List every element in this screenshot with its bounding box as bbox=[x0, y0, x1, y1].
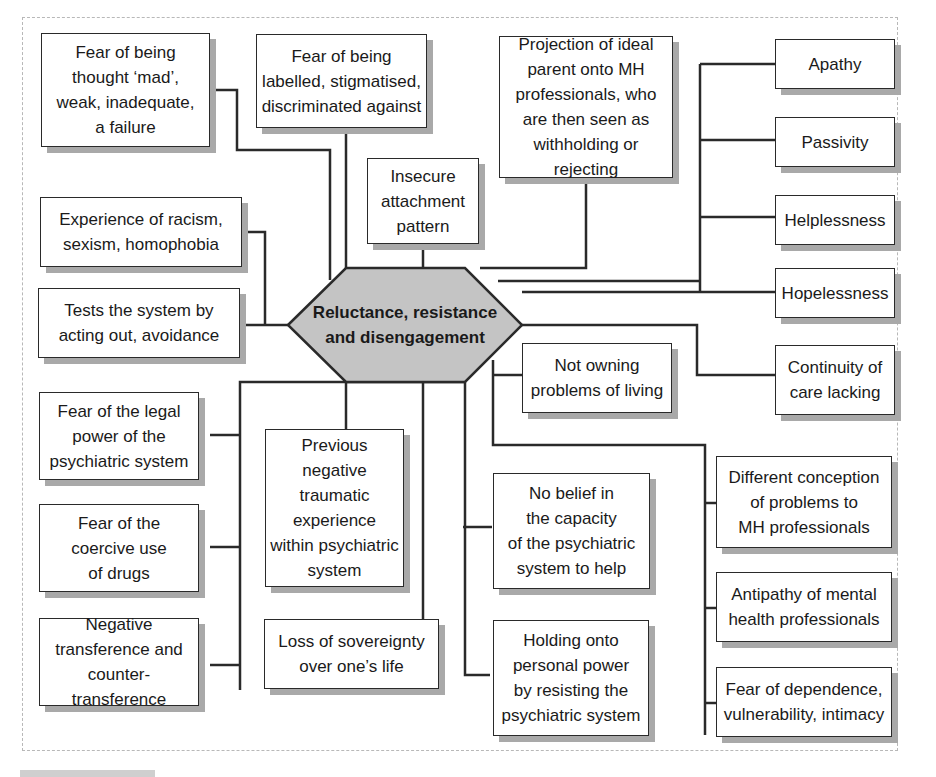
node-fear-thought-mad: Fear of being thought ‘mad’, weak, inade… bbox=[41, 33, 210, 147]
node-helplessness: Helplessness bbox=[775, 195, 895, 245]
node-passivity: Passivity bbox=[775, 117, 895, 167]
caption-tab bbox=[20, 770, 155, 777]
node-no-belief: No belief in the capacity of the psychia… bbox=[493, 473, 650, 589]
node-hopelessness: Hopelessness bbox=[775, 268, 895, 318]
node-fear-legal-power: Fear of the legal power of the psychiatr… bbox=[39, 392, 199, 480]
node-fear-labelled: Fear of being labelled, stigmatised, dis… bbox=[256, 34, 427, 128]
node-projection-ideal-parent: Projection of ideal parent onto MH profe… bbox=[499, 36, 673, 178]
node-fear-coercive-drugs: Fear of the coercive use of drugs bbox=[39, 504, 199, 592]
node-holding-power: Holding onto personal power by resisting… bbox=[493, 620, 649, 736]
node-negative-transference: Negative transference and counter-transf… bbox=[39, 618, 199, 706]
node-loss-sovereignty: Loss of sovereignty over one’s life bbox=[264, 619, 439, 689]
node-previous-negative: Previous negative traumatic experience w… bbox=[265, 429, 404, 587]
node-insecure-attachment: Insecure attachment pattern bbox=[367, 158, 479, 244]
node-experience-racism: Experience of racism, sexism, homophobia bbox=[40, 197, 242, 267]
node-different-conception: Different conception of problems to MH p… bbox=[716, 456, 892, 548]
node-antipathy: Antipathy of mental health professionals bbox=[716, 572, 892, 642]
node-continuity-care: Continuity of care lacking bbox=[775, 345, 895, 415]
node-apathy: Apathy bbox=[775, 39, 895, 89]
node-not-owning: Not owning problems of living bbox=[522, 343, 672, 413]
center-node-label: Reluctance, resistance and disengagement bbox=[288, 268, 522, 382]
node-tests-system: Tests the system by acting out, avoidanc… bbox=[38, 288, 240, 358]
node-fear-dependence: Fear of dependence, vulnerability, intim… bbox=[716, 667, 892, 737]
